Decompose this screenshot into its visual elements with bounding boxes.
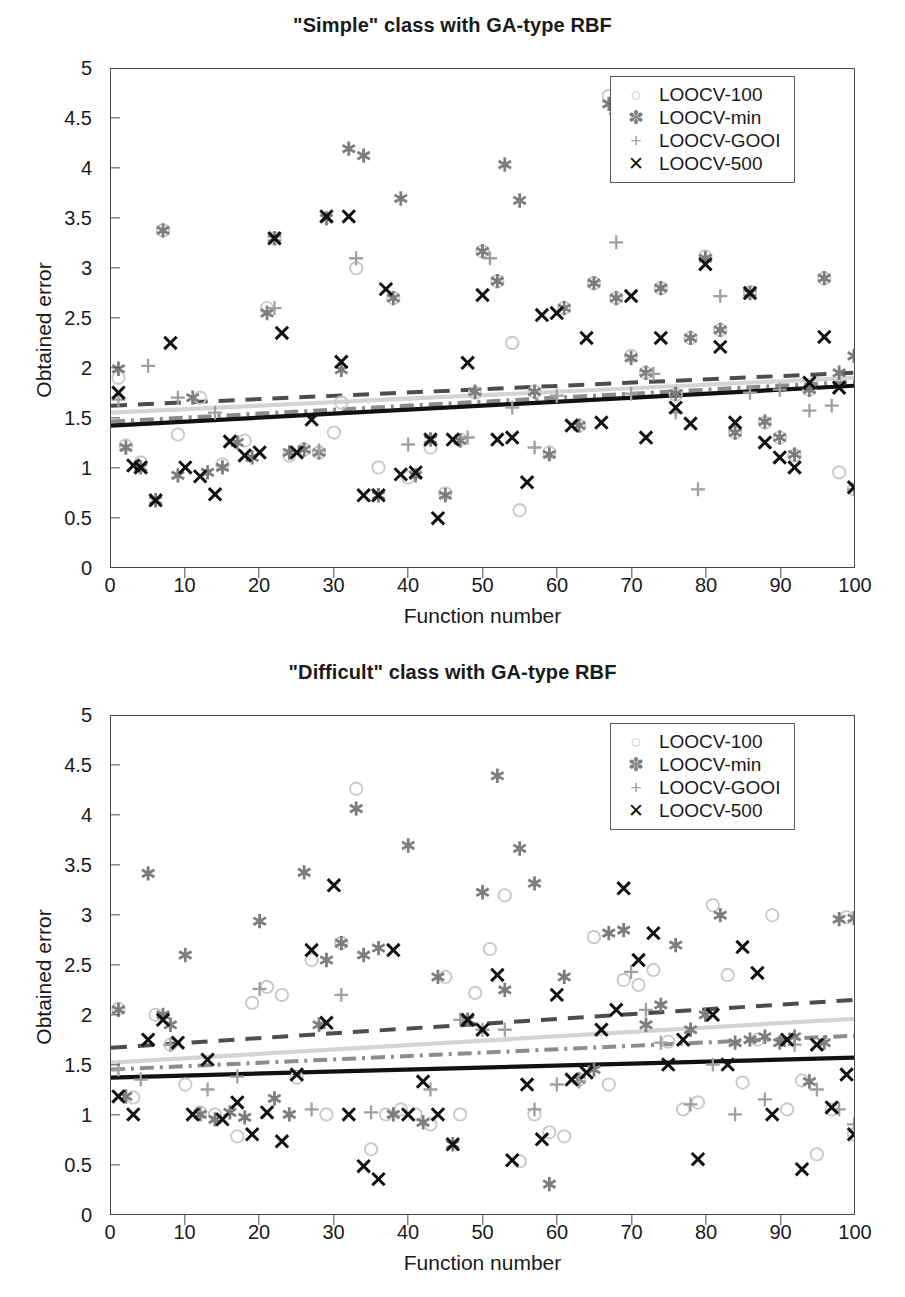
y-tick-label: 1 <box>81 457 92 480</box>
plus-marker-icon: + <box>619 778 653 797</box>
y-tick-mark <box>110 367 120 368</box>
y-axis-labels-simple: 00.511.522.533.544.55 <box>0 68 104 568</box>
x-tick-mark <box>184 568 185 578</box>
x-tick-label: 100 <box>838 1221 871 1244</box>
legend-item-loocv-gooi[interactable]: +LOOCV-GOOI <box>619 129 780 152</box>
y-tick-label: 4 <box>81 157 92 180</box>
legend-item-loocv-100[interactable]: ○LOOCV-100 <box>619 83 780 106</box>
series-loocv-500 <box>112 879 854 1185</box>
legend-item-label: LOOCV-100 <box>653 731 763 753</box>
y-tick-label: 4 <box>81 804 92 827</box>
y-tick-mark <box>110 517 120 518</box>
y-tick-label: 3.5 <box>64 854 92 877</box>
x-tick-mark <box>258 1215 259 1225</box>
y-axis-labels-difficult: 00.511.522.533.544.55 <box>0 715 104 1215</box>
x-tick-mark <box>631 568 632 578</box>
x-tick-mark <box>333 1215 334 1225</box>
x-tick-label: 0 <box>104 574 115 597</box>
x-tick-mark <box>780 1215 781 1225</box>
legend-item-label: LOOCV-min <box>653 754 761 776</box>
x-tick-mark <box>482 568 483 578</box>
y-tick-label: 0 <box>81 557 92 580</box>
x-tick-mark <box>407 568 408 578</box>
x-tick-mark <box>705 1215 706 1225</box>
y-tick-label: 0.5 <box>64 507 92 530</box>
y-tick-mark <box>110 814 120 815</box>
y-tick-mark <box>110 467 120 468</box>
series-loocv-gooi <box>111 235 854 496</box>
y-tick-mark <box>110 167 120 168</box>
legend-item-loocv-gooi[interactable]: +LOOCV-GOOI <box>619 776 780 799</box>
y-tick-label: 5 <box>81 704 92 727</box>
trend-line-3 <box>111 1058 854 1078</box>
legend-item-loocv-min[interactable]: ✽LOOCV-min <box>619 753 780 776</box>
figure-simple: "Simple" class with GA-type RBF Obtained… <box>0 8 905 638</box>
legend-item-label: LOOCV-100 <box>653 84 763 106</box>
legend-item-label: LOOCV-500 <box>653 153 763 175</box>
legend-item-loocv-min[interactable]: ✽LOOCV-min <box>619 106 780 129</box>
circle-marker-icon: ○ <box>619 85 653 104</box>
circle-marker-icon: ○ <box>619 732 653 751</box>
y-tick-mark <box>110 764 120 765</box>
y-tick-mark <box>110 1064 120 1065</box>
x-tick-mark <box>333 568 334 578</box>
y-tick-label: 0.5 <box>64 1154 92 1177</box>
y-tick-label: 4.5 <box>64 754 92 777</box>
x-tick-label: 0 <box>104 1221 115 1244</box>
y-tick-mark <box>110 964 120 965</box>
y-tick-label: 5 <box>81 57 92 80</box>
x-axis-labels-simple: 0102030405060708090100 <box>110 574 855 604</box>
legend-item-label: LOOCV-GOOI <box>653 130 780 152</box>
legend-item-label: LOOCV-GOOI <box>653 777 780 799</box>
y-tick-label: 3 <box>81 904 92 927</box>
y-tick-label: 3.5 <box>64 207 92 230</box>
cross-marker-icon: ✕ <box>619 801 653 820</box>
y-tick-mark <box>110 217 120 218</box>
y-tick-label: 1.5 <box>64 407 92 430</box>
x-tick-mark <box>258 568 259 578</box>
legend-item-label: LOOCV-500 <box>653 800 763 822</box>
legend-item-label: LOOCV-min <box>653 107 761 129</box>
x-tick-label: 100 <box>838 574 871 597</box>
x-tick-mark <box>556 568 557 578</box>
page-title-difficult: "Difficult" class with GA-type RBF <box>0 661 905 684</box>
page-title-simple: "Simple" class with GA-type RBF <box>0 14 905 37</box>
y-tick-mark <box>110 1114 120 1115</box>
legend-simple: ○LOOCV-100✽LOOCV-min+LOOCV-GOOI✕LOOCV-50… <box>610 76 795 183</box>
x-axis-labels-difficult: 0102030405060708090100 <box>110 1221 855 1251</box>
x-tick-mark <box>556 1215 557 1225</box>
y-tick-label: 1 <box>81 1104 92 1127</box>
legend-item-loocv-500[interactable]: ✕LOOCV-500 <box>619 799 780 822</box>
x-axis-title-simple: Function number <box>110 604 855 628</box>
x-tick-mark <box>184 1215 185 1225</box>
asterisk-marker-icon: ✽ <box>619 108 653 127</box>
y-tick-mark <box>110 417 120 418</box>
trend-line-0 <box>111 373 854 406</box>
x-tick-mark <box>705 568 706 578</box>
y-tick-mark <box>110 267 120 268</box>
y-tick-mark <box>110 864 120 865</box>
x-axis-title-difficult: Function number <box>110 1251 855 1275</box>
x-tick-mark <box>780 568 781 578</box>
y-tick-label: 1.5 <box>64 1054 92 1077</box>
y-tick-mark <box>110 1164 120 1165</box>
y-tick-label: 2 <box>81 1004 92 1027</box>
x-tick-mark <box>482 1215 483 1225</box>
x-tick-mark <box>631 1215 632 1225</box>
cross-marker-icon: ✕ <box>619 154 653 173</box>
series-loocv-gooi <box>111 965 854 1131</box>
y-tick-mark <box>110 117 120 118</box>
y-tick-mark <box>110 914 120 915</box>
x-tick-mark <box>407 1215 408 1225</box>
figure-difficult: "Difficult" class with GA-type RBF Obtai… <box>0 655 905 1285</box>
legend-item-loocv-100[interactable]: ○LOOCV-100 <box>619 730 780 753</box>
plus-marker-icon: + <box>619 131 653 150</box>
y-tick-label: 0 <box>81 1204 92 1227</box>
y-tick-label: 3 <box>81 257 92 280</box>
y-tick-mark <box>110 317 120 318</box>
y-tick-label: 2.5 <box>64 954 92 977</box>
y-tick-mark <box>110 1014 120 1015</box>
y-tick-label: 2 <box>81 357 92 380</box>
legend-item-loocv-500[interactable]: ✕LOOCV-500 <box>619 152 780 175</box>
asterisk-marker-icon: ✽ <box>619 755 653 774</box>
